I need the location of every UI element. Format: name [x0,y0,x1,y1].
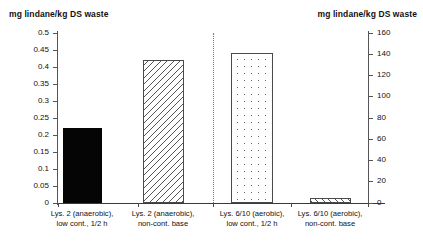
left-tick-label: 0.2 [38,131,49,139]
right-tick-label: 100 [377,92,390,100]
category-label-line2: non-cont. base [275,219,385,229]
left-axis-title: mg lindane/kg DS waste [9,9,109,19]
x-tick-mark [213,203,214,207]
bar-2 [143,60,184,203]
right-tick-mark [368,75,373,76]
right-tick-label: 160 [377,29,390,37]
right-tick-mark [368,54,373,55]
x-tick-mark [368,203,369,207]
right-tick-label: 0 [377,199,381,207]
category-label-line1: Lys. 2 (anaerobic), [51,209,114,218]
right-tick-mark [368,181,373,182]
x-axis-baseline [55,203,385,204]
bar-chart: mg lindane/kg DS waste mg lindane/kg DS … [0,0,423,241]
right-tick-mark [368,118,373,119]
left-tick-mark [53,84,58,85]
left-tick-mark [53,135,58,136]
bar-4 [310,198,351,203]
x-tick-mark [291,203,292,207]
left-tick-mark [53,101,58,102]
left-tick-mark [53,33,58,34]
right-tick-label: 20 [377,177,386,185]
bar-3 [231,53,273,203]
right-tick-label: 120 [377,71,390,79]
right-tick-mark [368,96,373,97]
left-tick-label: 0.15 [33,148,49,156]
left-tick-label: 0 [45,199,49,207]
category-label-line1: Lys. 2 (anaerobic), [132,209,195,218]
left-tick-label: 0.3 [38,97,49,105]
right-tick-label: 40 [377,156,386,164]
left-tick-mark [53,50,58,51]
category-label-line1: Lys. 6/10 (aerobic), [298,209,363,218]
category-label-4: Lys. 6/10 (aerobic),non-cont. base [275,209,385,229]
left-tick-mark [53,118,58,119]
group-divider [213,33,214,203]
right-tick-mark [368,160,373,161]
left-tick-mark [53,169,58,170]
right-tick-label: 80 [377,114,386,122]
right-tick-label: 140 [377,50,390,58]
right-tick-mark [368,139,373,140]
left-tick-label: 0.1 [38,165,49,173]
left-tick-label: 0.25 [33,114,49,122]
right-tick-label: 60 [377,135,386,143]
left-tick-label: 0.05 [33,182,49,190]
x-tick-mark [138,203,139,207]
right-tick-mark [368,33,373,34]
left-tick-mark [53,67,58,68]
bar-1 [63,128,102,203]
left-tick-mark [53,186,58,187]
left-tick-mark [53,152,58,153]
left-tick-label: 0.4 [38,63,49,71]
left-tick-label: 0.35 [33,80,49,88]
left-tick-label: 0.45 [33,46,49,54]
left-tick-label: 0.5 [38,29,49,37]
right-axis-title: mg lindane/kg DS waste [317,9,417,19]
x-tick-mark [58,203,59,207]
